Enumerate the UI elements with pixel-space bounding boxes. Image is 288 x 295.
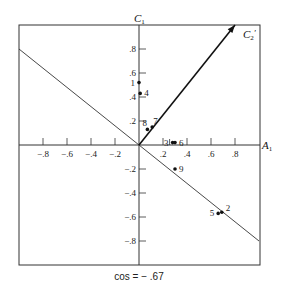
data-point — [137, 81, 141, 85]
point-label: 8 — [142, 118, 147, 128]
x-tick-label: −.6 — [61, 149, 73, 159]
factor-plot: −.8−.6−.4−.2.2.4.6.8.8.6.4.2−.2−.4−.6−.8… — [0, 0, 288, 295]
cosine-caption: cos = − .67 — [0, 271, 278, 282]
y-tick-label: −.2 — [124, 164, 136, 174]
vector-label: C2′ — [243, 28, 257, 42]
x-tick-label: .4 — [184, 149, 191, 159]
point-label: 3 — [164, 138, 169, 148]
point-label: 1 — [131, 78, 136, 88]
y-tick-label: .2 — [129, 116, 136, 126]
point-label: 5 — [210, 208, 215, 218]
data-point — [216, 212, 220, 216]
y-tick-label: .4 — [129, 92, 136, 102]
point-label: 4 — [144, 88, 149, 98]
data-point — [138, 92, 142, 96]
data-point — [220, 210, 224, 214]
point-label: 6 — [179, 138, 184, 148]
x-axis-label: A1 — [261, 139, 273, 153]
data-point — [173, 167, 177, 171]
point-label: 7 — [153, 116, 158, 126]
x-tick-label: −.2 — [109, 149, 121, 159]
x-tick-label: −.8 — [37, 149, 49, 159]
point-label: 2 — [226, 203, 231, 213]
data-points: 123456789 — [131, 78, 231, 219]
x-tick-label: −.4 — [85, 149, 97, 159]
y-tick-label: −.6 — [124, 212, 136, 222]
y-tick-label: .6 — [129, 68, 136, 78]
x-tick-label: .8 — [232, 149, 239, 159]
y-axis-label: C1 — [134, 12, 145, 26]
x-tick-label: .6 — [208, 149, 215, 159]
point-label: 9 — [179, 164, 184, 174]
y-tick-label: .8 — [129, 44, 136, 54]
x-tick-label: .2 — [160, 149, 167, 159]
y-tick-label: −.8 — [124, 236, 136, 246]
y-tick-label: −.4 — [124, 188, 136, 198]
data-point — [173, 141, 177, 145]
